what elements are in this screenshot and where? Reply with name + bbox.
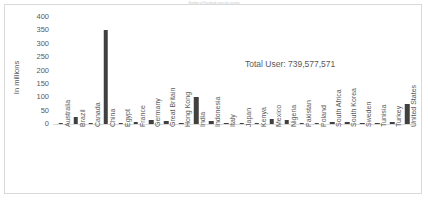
chart-container: Number of Facebook users by country In m…	[4, 4, 422, 194]
y-axis-title: In millions	[10, 41, 24, 113]
x-tick-label: India	[189, 126, 204, 186]
x-tick-label: South Africa	[325, 126, 340, 186]
x-tick-label: Tunisia	[370, 126, 385, 186]
x-tick-label-text: Kenya	[260, 107, 267, 127]
x-tick-label-text: Mexico	[275, 105, 282, 127]
x-tick-label: Egypt	[113, 126, 128, 186]
x-tick-label: Pakistan	[294, 126, 309, 186]
x-tick-label: Hong Kong	[174, 126, 189, 186]
x-axis-labels: AustraliaBrazilCanadaChinaEgyptFranceGer…	[53, 126, 415, 188]
bar	[73, 117, 78, 124]
x-tick-label-text: Hong Kong	[184, 92, 191, 127]
x-tick-label-text: Pakistan	[305, 100, 312, 127]
x-tick-label-text: Egypt	[124, 109, 131, 127]
y-tick-label: 150	[36, 80, 49, 88]
x-tick-label-text: Great Britain	[169, 88, 176, 127]
x-tick-label: Italy	[219, 126, 234, 186]
x-tick-label-text: South Korea	[350, 88, 357, 127]
y-tick-label: 350	[36, 26, 49, 34]
x-tick-label-text: Canada	[94, 102, 101, 127]
chart-title: Number of Facebook users by country	[5, 1, 423, 5]
x-tick-label: Japan	[234, 126, 249, 186]
x-tick-label-text: France	[139, 105, 146, 127]
y-tick-label: 200	[36, 67, 49, 75]
x-tick-label-text: Indonesia	[214, 97, 221, 127]
y-axis-title-label: In millions	[13, 60, 22, 93]
bar	[194, 97, 199, 124]
x-tick-label-text: Japan	[245, 108, 252, 127]
x-tick-label: South Korea	[340, 126, 355, 186]
x-tick-label: Mexico	[264, 126, 279, 186]
x-tick-label: Sweden	[355, 126, 370, 186]
x-tick-label-text: Tunisia	[380, 105, 387, 127]
y-tick-label: 300	[36, 40, 49, 48]
bar	[405, 104, 410, 124]
x-tick-label: Canada	[83, 126, 98, 186]
x-tick-label-text: Turkey	[395, 106, 402, 127]
x-tick-label-text: Sweden	[365, 102, 372, 127]
x-tick-label: Indonesia	[204, 126, 219, 186]
y-tick-label: 50	[41, 107, 49, 115]
x-tick-label: France	[128, 126, 143, 186]
x-tick-label-text: India	[199, 112, 206, 127]
x-tick-label: China	[98, 126, 113, 186]
x-tick-label: Nigeria	[279, 126, 294, 186]
x-tick-label-text: South Africa	[335, 89, 342, 127]
x-tick-label-text: Nigeria	[290, 105, 297, 127]
bar	[104, 30, 109, 124]
bar-series	[53, 17, 415, 124]
x-tick-label: Great Britain	[159, 126, 174, 186]
x-tick-label-text: Australia	[64, 100, 71, 127]
x-tick-label: Kenya	[249, 126, 264, 186]
y-axis-ticks: 400350300250200150100500	[23, 17, 51, 124]
x-tick-label-text: Poland	[320, 105, 327, 127]
x-tick-label: United States	[400, 126, 415, 186]
y-tick-label: 400	[36, 13, 49, 21]
x-tick-label: Poland	[309, 126, 324, 186]
bar-slot	[189, 17, 204, 124]
bar-slot	[219, 17, 234, 124]
y-tick-label: 250	[36, 53, 49, 61]
x-tick-label-text: China	[109, 109, 116, 127]
plot-area	[53, 17, 415, 124]
x-tick-label: Brazil	[68, 126, 83, 186]
x-tick-label-text: Brazil	[79, 109, 86, 127]
y-tick-label: 100	[36, 93, 49, 101]
x-tick-label: Australia	[53, 126, 68, 186]
x-tick-label: Turkey	[385, 126, 400, 186]
x-tick-label-text: Germany	[154, 98, 161, 127]
x-tick-label: Germany	[144, 126, 159, 186]
x-tick-label-text: United States	[410, 85, 417, 127]
total-users-annotation: Total User: 739,577,571	[245, 59, 335, 69]
y-tick-label: 0	[45, 120, 49, 128]
